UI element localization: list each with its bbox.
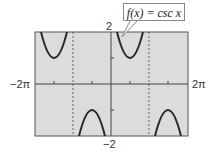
y-max-label: 2	[106, 21, 112, 32]
function-label: f(x) = csc x	[123, 3, 185, 21]
x-min-label: −2π	[10, 79, 30, 90]
y-min-label: −2	[103, 139, 116, 150]
x-max-label: 2π	[192, 79, 206, 90]
